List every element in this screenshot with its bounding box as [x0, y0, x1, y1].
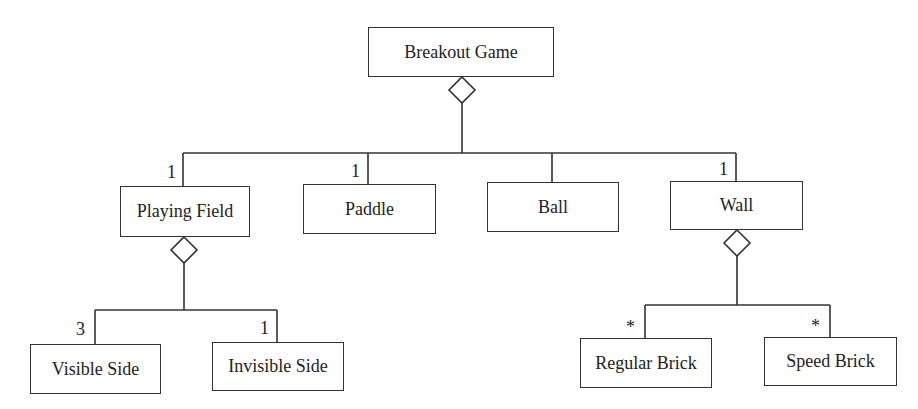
class-playing-field: Playing Field	[120, 186, 250, 237]
class-label: Breakout Game	[404, 42, 517, 63]
class-label: Regular Brick	[595, 353, 696, 374]
multiplicity-label: 1	[167, 163, 176, 181]
class-label: Speed Brick	[786, 351, 874, 372]
class-label: Playing Field	[137, 201, 234, 222]
class-label: Invisible Side	[228, 356, 328, 377]
class-invisible-side: Invisible Side	[212, 342, 344, 391]
multiplicity-label: 1	[260, 319, 269, 337]
class-ball: Ball	[487, 182, 619, 232]
class-label: Wall	[720, 195, 754, 216]
class-paddle: Paddle	[303, 184, 436, 234]
multiplicity-label: 1	[351, 162, 360, 180]
class-regular-brick: Regular Brick	[580, 338, 712, 388]
multiplicity-label: *	[811, 317, 820, 335]
multiplicity-label: 1	[719, 160, 728, 178]
class-label: Visible Side	[52, 359, 139, 380]
class-speed-brick: Speed Brick	[764, 337, 897, 386]
multiplicity-label: *	[626, 318, 635, 336]
class-label: Paddle	[345, 199, 394, 220]
class-label: Ball	[538, 197, 568, 218]
class-breakout-game: Breakout Game	[368, 27, 554, 77]
class-visible-side: Visible Side	[30, 344, 161, 394]
class-wall: Wall	[670, 181, 803, 230]
multiplicity-label: 3	[76, 320, 85, 338]
aggregation-diamond-icon	[449, 77, 475, 103]
aggregation-diamond-icon	[171, 237, 197, 263]
aggregation-diamond-icon	[724, 230, 750, 256]
